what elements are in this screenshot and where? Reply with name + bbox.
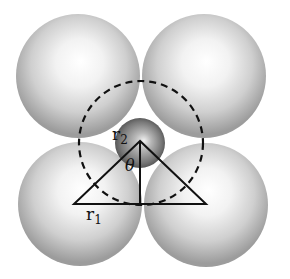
diagram-svg: r2 θ r1	[0, 0, 290, 279]
sphere-top-left	[16, 14, 140, 138]
label-theta: θ	[125, 156, 135, 175]
diagram-canvas: r2 θ r1	[0, 0, 290, 279]
sphere-top-right	[142, 14, 266, 138]
